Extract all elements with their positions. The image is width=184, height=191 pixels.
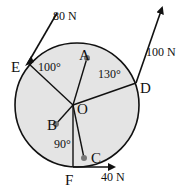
label-B: B: [47, 117, 57, 133]
label-D: D: [140, 80, 151, 96]
pin-C: [81, 155, 87, 161]
label-C: C: [91, 150, 101, 166]
angle-F-label: 90°: [54, 137, 71, 151]
angle-D-label: 130°: [98, 67, 121, 81]
label-A: A: [79, 47, 90, 63]
label-F: F: [65, 172, 73, 188]
label-O: O: [77, 101, 88, 117]
force-E-label: 80 N: [53, 9, 77, 23]
force-F-label: 40 N: [101, 170, 125, 184]
force-D-label: 100 N: [146, 45, 176, 59]
angle-E-label: 100°: [38, 60, 61, 74]
label-E: E: [11, 59, 20, 75]
force-disc-diagram: E A D O B C F 100° 130° 90° 80 N 100 N 4…: [0, 0, 184, 191]
